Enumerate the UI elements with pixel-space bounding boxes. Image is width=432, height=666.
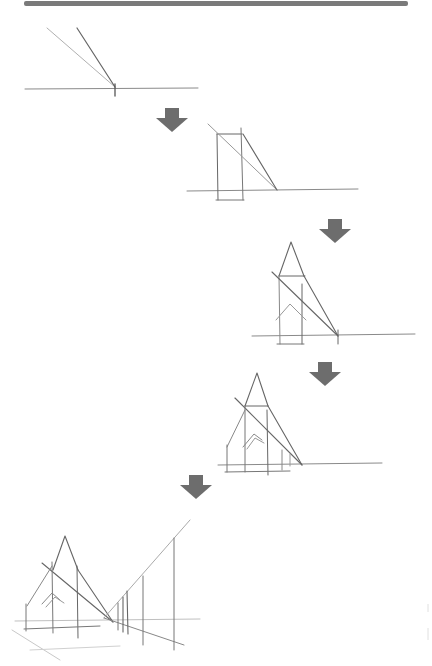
down-arrow-icon [309, 362, 341, 386]
down-arrow-icon [180, 475, 212, 499]
step-3-sketch [252, 242, 415, 344]
step-5-sketch [12, 520, 200, 660]
down-arrow-icon [319, 219, 351, 243]
sketch-canvas [0, 0, 432, 666]
step-1-sketch [25, 28, 198, 96]
step-2-sketch [187, 124, 358, 200]
step-4-sketch [218, 373, 382, 475]
down-arrow-icon [156, 108, 188, 132]
